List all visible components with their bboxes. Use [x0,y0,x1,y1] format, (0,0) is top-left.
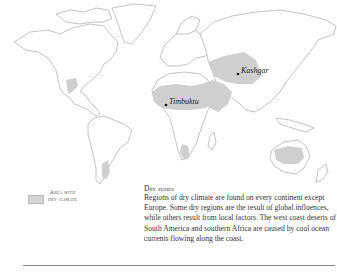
southeast-asia-islands [276,118,314,132]
divider-rule [23,265,335,266]
city-label-timbuktu: Timbuktu [169,97,199,106]
legend-label-line2: dry climate [48,196,77,203]
madagascar [208,132,216,150]
legend-swatch-dry-climate [28,195,44,204]
greenland [112,4,156,44]
caption-title: Dry zones [144,184,174,193]
legend-label-line1: Area with [48,189,77,196]
arctic-islands [56,8,112,24]
city-marker-timbuktu [165,104,168,107]
city-marker-kashgar [237,73,240,76]
caption-body: Regions of dry climate are found on ever… [144,193,336,244]
legend-label: Area with dry climate [48,189,77,202]
north-america [14,24,118,116]
city-label-kashgar: Kashgar [241,66,269,75]
south-america [88,116,132,184]
new-zealand [316,164,328,182]
